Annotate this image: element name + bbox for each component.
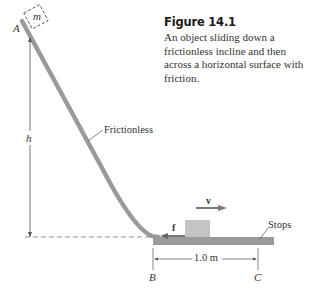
height-label: h [26, 131, 32, 145]
dimension-arrow-right [253, 258, 257, 261]
velocity-label: v⃗ [206, 195, 219, 206]
figure-title: Figure 14.1 [164, 15, 309, 29]
frictionless-leader [88, 130, 103, 141]
mass-label: m [33, 10, 41, 22]
stops-label: Stops [268, 219, 291, 230]
point-b-label: B [149, 271, 156, 283]
height-arrow-bottom [28, 232, 32, 237]
point-c-label: C [254, 271, 261, 283]
distance-label: 1.0 m [194, 252, 218, 263]
horizontal-surface [153, 237, 274, 245]
figure-caption: Figure 14.1 An object sliding down a fri… [164, 15, 309, 85]
sliding-block [185, 220, 210, 237]
friction-label: f⃗ [172, 222, 183, 233]
incline-label: Frictionless [104, 124, 153, 135]
dimension-arrow-left [154, 258, 158, 261]
velocity-arrowhead [218, 205, 227, 211]
figure-caption-text: An object sliding down a frictionless in… [164, 31, 309, 85]
point-a-label: A [13, 22, 20, 34]
